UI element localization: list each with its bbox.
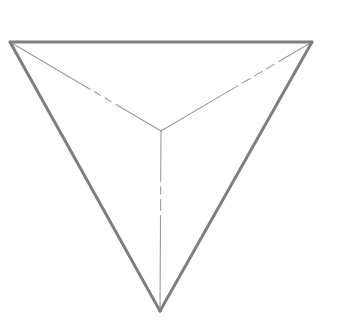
inner-vertical-edge — [160, 216, 161, 311]
inner-right-edge — [255, 71, 263, 75]
right-edge — [160, 42, 312, 311]
inner-left-edge — [95, 92, 101, 96]
inner-left-edge — [105, 98, 111, 102]
tetrahedron-diagram — [0, 0, 346, 332]
inner-left-edge — [116, 104, 161, 131]
inner-edges — [10, 42, 312, 311]
inner-right-edge — [161, 86, 238, 131]
left-edge — [10, 42, 160, 311]
inner-right-edge — [243, 78, 251, 82]
inner-right-edge — [267, 64, 275, 68]
